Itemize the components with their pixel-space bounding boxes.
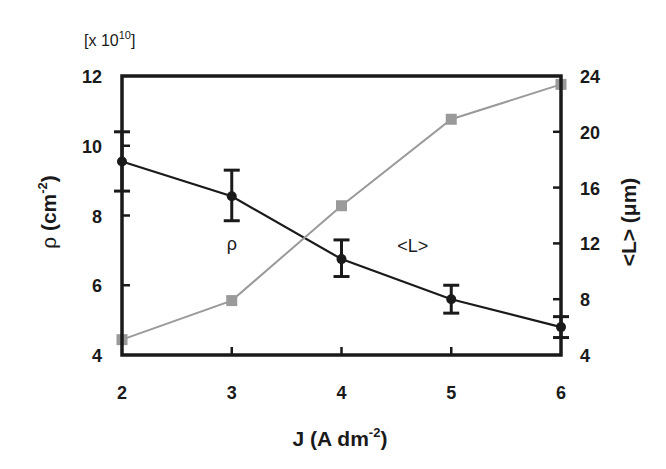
y-left-multiplier: [x 1010] xyxy=(84,29,135,49)
y-left-tick-label: 6 xyxy=(92,276,102,296)
y-left-tick-label: 8 xyxy=(92,207,102,227)
axes-frame xyxy=(122,76,561,355)
y-right-tick-label: 20 xyxy=(580,123,600,143)
y-left-tick-label: 10 xyxy=(82,137,102,157)
x-tick-label: 3 xyxy=(227,383,237,403)
y-right-tick-label: 12 xyxy=(580,234,600,254)
y-right-tick-label: 8 xyxy=(580,290,590,310)
series-L xyxy=(117,79,567,345)
y-left-tick-label: 4 xyxy=(92,346,102,366)
axes xyxy=(122,76,561,355)
chart: 2345646810124812162024J (A dm-2)ρ (cm-2)… xyxy=(0,0,666,469)
data-point-circle xyxy=(337,254,347,264)
series-line xyxy=(122,84,561,339)
y-left-axis-title: ρ (cm-2) xyxy=(35,175,60,249)
series-layer xyxy=(114,79,569,345)
data-point-circle xyxy=(446,294,456,304)
data-point-circle xyxy=(227,191,237,201)
x-tick-label: 2 xyxy=(117,383,127,403)
y-right-tick-label: 16 xyxy=(580,179,600,199)
x-tick-label: 6 xyxy=(556,383,566,403)
y-right-tick-label: 4 xyxy=(580,346,590,366)
x-axis-title: J (A dm-2) xyxy=(293,425,388,450)
series-label-rho: ρ xyxy=(227,234,237,254)
y-right-axis-title: <L> (μm) xyxy=(617,178,640,267)
y-right-tick-label: 24 xyxy=(580,67,600,87)
x-tick-label: 4 xyxy=(336,383,346,403)
data-point-square xyxy=(446,114,457,125)
x-tick-label: 5 xyxy=(446,383,456,403)
series-label-L: <L> xyxy=(397,236,428,256)
data-point-square xyxy=(336,200,347,211)
data-point-square xyxy=(226,295,237,306)
series-rho xyxy=(114,132,569,338)
y-left-tick-label: 12 xyxy=(82,67,102,87)
